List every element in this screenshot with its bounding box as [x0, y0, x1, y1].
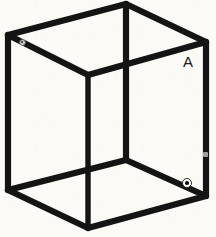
circled-point-marker	[182, 178, 192, 188]
edge-bottom-left-to-front-bottom	[8, 190, 88, 228]
edge-bottom-left-to-back-bottom	[8, 160, 126, 190]
cube-figure: A	[0, 0, 216, 237]
faint-point-marker	[19, 39, 26, 46]
edge-top-back-to-top-right	[126, 4, 206, 42]
edge-front-bottom-to-bottom-right	[88, 196, 206, 228]
faint-edge-mark	[203, 152, 208, 157]
edge-back-bottom-to-bottom-right	[126, 160, 206, 196]
edge-top-left-to-top-back	[8, 4, 126, 35]
vertex-label-a: A	[183, 54, 193, 69]
cube-wireframe	[0, 0, 216, 237]
